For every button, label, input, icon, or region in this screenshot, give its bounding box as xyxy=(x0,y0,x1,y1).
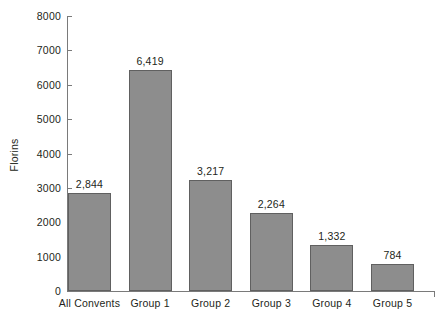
bar xyxy=(250,213,293,291)
y-axis-tick-label: 2000 xyxy=(37,216,61,228)
x-axis-category-label: All Convents xyxy=(56,297,123,309)
bar xyxy=(129,70,172,291)
bar xyxy=(371,264,414,291)
y-axis-tick xyxy=(67,154,72,155)
x-axis-end-tick xyxy=(434,291,435,297)
y-axis-tick-label: 0 xyxy=(55,285,61,297)
y-axis-tick xyxy=(67,50,72,51)
y-axis-title: Florins xyxy=(8,139,20,172)
y-axis-tick-label: 1000 xyxy=(37,251,61,263)
bar-value-label: 2,264 xyxy=(238,198,305,210)
y-axis-tick xyxy=(67,16,72,17)
bar-value-label: 784 xyxy=(359,249,426,261)
bar-chart: Florins 01000200030004000500060007000800… xyxy=(0,0,439,325)
bar xyxy=(189,180,232,291)
bar-value-label: 2,844 xyxy=(56,178,123,190)
x-axis-category-label: Group 2 xyxy=(177,297,244,309)
y-axis-tick-label: 6000 xyxy=(37,79,61,91)
x-axis-category-label: Group 1 xyxy=(117,297,184,309)
bar-value-label: 1,332 xyxy=(298,230,365,242)
x-axis-line xyxy=(67,291,435,292)
y-axis-tick-label: 5000 xyxy=(37,113,61,125)
bar xyxy=(68,193,111,291)
y-axis-tick xyxy=(67,119,72,120)
y-axis-tick xyxy=(67,291,72,292)
x-axis-category-label: Group 5 xyxy=(359,297,426,309)
bar-value-label: 6,419 xyxy=(117,55,184,67)
x-axis-category-label: Group 3 xyxy=(238,297,305,309)
bar xyxy=(310,245,353,291)
y-axis-tick xyxy=(67,85,72,86)
y-axis-tick-label: 4000 xyxy=(37,148,61,160)
bar-value-label: 3,217 xyxy=(177,165,244,177)
y-axis-tick-label: 8000 xyxy=(37,10,61,22)
y-axis-tick-label: 7000 xyxy=(37,44,61,56)
x-axis-category-label: Group 4 xyxy=(298,297,365,309)
